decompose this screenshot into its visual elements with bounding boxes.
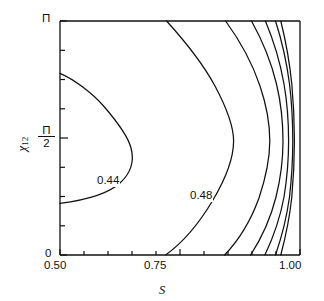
y-tick-label-mid: Π 2 [38,124,55,149]
y-tick-mid-denominator: 2 [38,137,55,149]
contour-level-3 [225,21,270,255]
x-tick-label-2: 1.00 [279,260,301,272]
axis-frame [60,21,300,255]
x-axis-label: S [0,283,324,298]
y-tick-mid-numerator: Π [38,124,55,137]
y-axis-label-symbol: χ [14,146,29,152]
contour-level-0.48 [166,21,234,255]
contour-plot-figure: Π Π 2 0 χ12 0.50 0.75 1.00 S 0.44 0.48 [0,0,324,301]
x-tick-label-0: 0.50 [44,260,66,272]
y-axis-label-wrapper: χ12 [8,118,36,178]
x-axis-ticks [60,249,300,255]
y-axis-ticks [60,21,68,255]
contour-curves [60,21,294,255]
y-axis-label-subscript: 12 [20,137,30,146]
x-tick-label-1: 0.75 [144,260,166,272]
contour-label-044: 0.44 [96,175,120,187]
y-tick-label-max: Π [42,13,50,25]
y-tick-label-min: 0 [45,248,51,260]
y-axis-label: χ12 [14,119,30,169]
contour-label-048: 0.48 [189,190,213,202]
